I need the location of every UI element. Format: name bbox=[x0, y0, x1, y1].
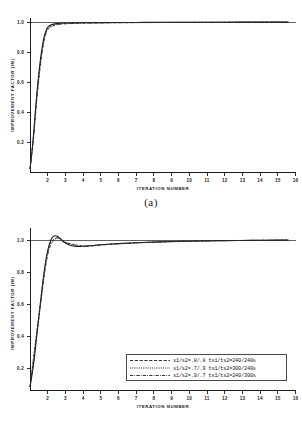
legend-label-2: s1/s2=.9/.7 ts1/ts2=240/300s bbox=[173, 373, 256, 379]
figure-page: 1.0 0.8 0.6 0.4 0.2 bbox=[0, 0, 302, 437]
chart-a-xticklabel: 8 bbox=[153, 178, 156, 183]
legend-label-0: s1/s2=.8/.8 ts1/ts2=240/240s bbox=[173, 358, 256, 364]
chart-a-xticklabel: 12 bbox=[222, 178, 228, 183]
chart-a-x-ticks bbox=[48, 172, 296, 176]
chart-b-xticklabel: 16 bbox=[293, 396, 299, 401]
chart-b-x-ticks bbox=[48, 390, 296, 394]
chart-b-yticklabel: 0.2 bbox=[17, 366, 24, 371]
chart-a-xticklabel: 10 bbox=[187, 178, 193, 183]
chart-b-xticklabel: 8 bbox=[153, 396, 156, 401]
chart-b-xticklabel: 2 bbox=[46, 396, 49, 401]
chart-a-xticklabel: 4 bbox=[82, 178, 85, 183]
chart-b-xticklabel: 11 bbox=[204, 396, 210, 401]
chart-b-x-ticklabels: 2 3 4 5 6 7 8 9 10 11 12 13 14 15 16 bbox=[46, 396, 298, 401]
chart-a-xticklabel: 3 bbox=[64, 178, 67, 183]
chart-b-xticklabel: 6 bbox=[117, 396, 120, 401]
chart-a-y-axis-title: IMPROVEMENT FACTOR (IM) bbox=[10, 58, 15, 132]
chart-a-yticklabel: 1.0 bbox=[17, 20, 24, 25]
chart-a-yticklabel: 0.2 bbox=[17, 140, 24, 145]
chart-a-svg: 1.0 0.8 0.6 0.4 0.2 bbox=[0, 0, 302, 200]
chart-a-xticklabel: 15 bbox=[275, 178, 281, 183]
chart-a-y-ticklabels: 1.0 0.8 0.6 0.4 0.2 bbox=[17, 20, 24, 145]
chart-b-svg: 1.0 0.8 0.6 0.4 0.2 bbox=[0, 218, 302, 437]
chart-a-x-axis-title: ITERATION NUMBER bbox=[137, 186, 190, 191]
chart-a-yticklabel: 0.6 bbox=[17, 80, 24, 85]
chart-b-xticklabel: 10 bbox=[187, 396, 193, 401]
chart-b-xticklabel: 7 bbox=[135, 396, 138, 401]
chart-b-legend[interactable]: s1/s2=.8/.8 ts1/ts2=240/240s s1/s2=.7/.9… bbox=[126, 354, 286, 380]
chart-b-yticklabel: 0.6 bbox=[17, 302, 24, 307]
chart-b-xticklabel: 4 bbox=[82, 396, 85, 401]
chart-b-yticklabel: 1.0 bbox=[17, 238, 24, 243]
chart-b-xticklabel: 9 bbox=[170, 396, 173, 401]
chart-b-yticklabel: 0.8 bbox=[17, 270, 24, 275]
chart-panel-b: 1.0 0.8 0.6 0.4 0.2 bbox=[0, 218, 302, 437]
chart-a-xticklabel: 14 bbox=[257, 178, 263, 183]
chart-b-xticklabel: 3 bbox=[64, 396, 67, 401]
chart-a-xticklabel: 2 bbox=[46, 178, 49, 183]
chart-a-yticklabel: 0.4 bbox=[17, 110, 24, 115]
chart-b-xticklabel: 14 bbox=[257, 396, 263, 401]
chart-a-series-group bbox=[30, 22, 288, 169]
chart-b-y-axis-title: IMPROVEMENT FACTOR (IM) bbox=[10, 276, 15, 350]
chart-a-series-solid bbox=[30, 22, 288, 169]
chart-b-xticklabel: 15 bbox=[275, 396, 281, 401]
chart-panel-a: 1.0 0.8 0.6 0.4 0.2 bbox=[0, 0, 302, 218]
chart-b-xticklabel: 12 bbox=[222, 396, 228, 401]
chart-b-x-axis-title: ITERATION NUMBER bbox=[137, 404, 190, 409]
chart-b-xticklabel: 13 bbox=[240, 396, 246, 401]
chart-a-series-dashdot bbox=[30, 22, 288, 169]
chart-a-xticklabel: 7 bbox=[135, 178, 138, 183]
chart-a-xticklabel: 5 bbox=[99, 178, 102, 183]
chart-a-xticklabel: 16 bbox=[293, 178, 299, 183]
chart-a-xticklabel: 9 bbox=[170, 178, 173, 183]
chart-a-yticklabel: 0.8 bbox=[17, 50, 24, 55]
chart-b-yticklabel: 0.4 bbox=[17, 334, 24, 339]
chart-b-y-ticklabels: 1.0 0.8 0.6 0.4 0.2 bbox=[17, 238, 24, 371]
chart-a-series-dashed bbox=[30, 22, 288, 169]
legend-label-1: s1/s2=.7/.9 ts1/ts2=300/240s bbox=[173, 366, 256, 372]
chart-a-xticklabel: 11 bbox=[204, 178, 210, 183]
caption-a: (a) bbox=[0, 196, 302, 208]
chart-b-xticklabel: 5 bbox=[99, 396, 102, 401]
chart-a-x-ticklabels: 2 3 4 5 6 7 8 9 10 11 12 13 14 15 16 bbox=[46, 178, 298, 183]
chart-a-xticklabel: 13 bbox=[240, 178, 246, 183]
chart-a-xticklabel: 6 bbox=[117, 178, 120, 183]
